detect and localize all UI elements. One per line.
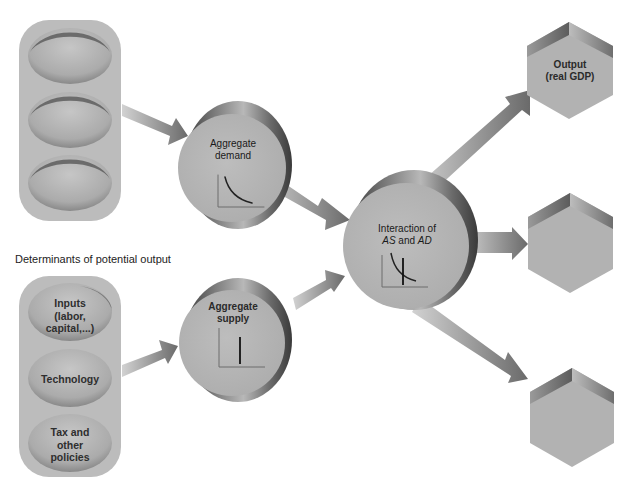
interaction-label: Interaction of AS and AD: [366, 223, 448, 247]
aggregate-supply-label: Aggregate supply: [196, 301, 270, 325]
technology-label-line1: Technology: [28, 373, 112, 386]
aggregate-supply-cylinder: [179, 278, 292, 402]
as-label-line2: supply: [196, 313, 270, 325]
dome-2: [28, 92, 112, 148]
ad-label-line2: demand: [196, 150, 270, 162]
arrow-bottom-to-as: [122, 340, 178, 377]
interaction-label-line1: Interaction of: [366, 223, 448, 235]
as-label-line1: Aggregate: [196, 301, 270, 313]
arrow-top-to-ad: [122, 104, 188, 145]
dome-3: [28, 155, 112, 211]
output-hexagon-3: [530, 368, 614, 467]
dome-1: [28, 28, 112, 84]
inputs-label-line1: Inputs: [28, 297, 112, 310]
output-label-line1: Output: [530, 59, 610, 71]
inputs-label-line3: capital,...): [28, 322, 112, 335]
arrow-interaction-to-output3: [412, 298, 528, 383]
ad-italic: AD: [418, 235, 432, 246]
aggregate-demand-cylinder: [178, 101, 292, 229]
tax-policies-label: Tax and other policies: [28, 426, 112, 464]
output-hexagon-2: [528, 193, 613, 293]
output-real-gdp-label: Output (real GDP): [530, 59, 610, 83]
output-label-line2: (real GDP): [530, 71, 610, 83]
interaction-label-line2: AS and AD: [366, 235, 448, 247]
inputs-label: Inputs (labor, capital,...): [28, 297, 112, 335]
tax-label-line2: other: [28, 439, 112, 452]
aggregate-demand-label: Aggregate demand: [196, 138, 270, 162]
arrow-as-to-interaction: [293, 270, 345, 310]
inputs-label-line2: (labor,: [28, 310, 112, 323]
tax-label-line3: policies: [28, 451, 112, 464]
and-text: and: [396, 235, 418, 246]
top-left-pill-group: [19, 20, 121, 221]
tax-label-line1: Tax and: [28, 426, 112, 439]
ad-label-line1: Aggregate: [196, 138, 270, 150]
section-label-determinants: Determinants of potential output: [15, 253, 171, 265]
as-italic: AS: [382, 235, 395, 246]
technology-label: Technology: [28, 373, 112, 386]
